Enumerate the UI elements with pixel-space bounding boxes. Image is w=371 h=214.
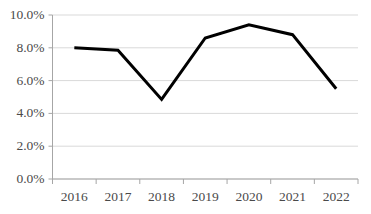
x-tick-label: 2022	[323, 190, 350, 204]
x-tick-label: 2020	[235, 190, 262, 204]
x-tick-label: 2018	[148, 190, 175, 204]
x-tick-label: 2021	[279, 190, 306, 204]
x-tick-label: 2016	[61, 190, 88, 204]
x-axis-tick-labels: 2016201720182019202020212022	[0, 0, 371, 214]
x-tick-label: 2017	[104, 190, 131, 204]
line-chart: 10.0%8.0%6.0%4.0%2.0%0.0% 20162017201820…	[0, 0, 371, 214]
x-tick-label: 2019	[192, 190, 219, 204]
